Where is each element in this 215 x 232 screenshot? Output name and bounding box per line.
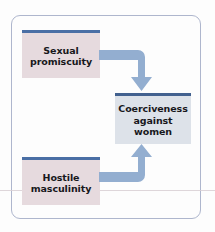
diagram-canvas: Sexual promiscuity Coerciveness against …	[0, 0, 215, 232]
node-label: Hostile masculinity	[31, 172, 92, 195]
node-sexual-promiscuity[interactable]: Sexual promiscuity	[22, 30, 100, 78]
node-top-bar	[22, 157, 100, 160]
node-hostile-masculinity[interactable]: Hostile masculinity	[22, 157, 100, 205]
arrow-hostile-masculinity-to-coerciveness	[99, 144, 157, 188]
arrow-sexual-promiscuity-to-coerciveness	[99, 44, 157, 94]
node-coerciveness-against-women[interactable]: Coerciveness against women	[115, 93, 191, 144]
node-top-bar	[22, 30, 100, 33]
node-label: Sexual promiscuity	[30, 45, 92, 68]
node-label: Coerciveness against women	[118, 103, 187, 138]
